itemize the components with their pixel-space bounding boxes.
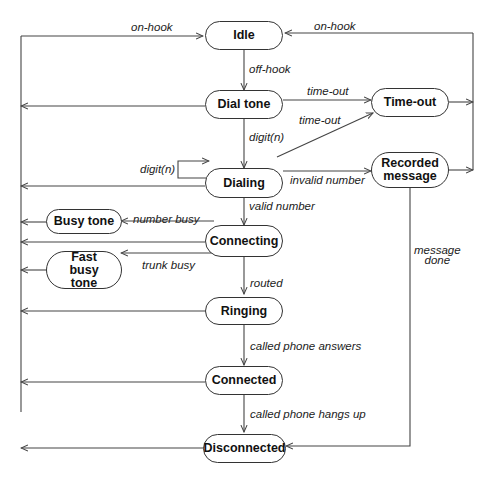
label-dialtone-timeout: time-out — [307, 85, 349, 97]
state-recorded-message: Recorded message — [371, 152, 449, 188]
label-number-busy: number busy — [133, 213, 199, 225]
label-on-hook-left: on-hook — [131, 21, 173, 33]
label-on-hook-right: on-hook — [314, 20, 356, 32]
label-dialing-timeout: time-out — [299, 114, 341, 126]
state-connecting: Connecting — [205, 225, 283, 257]
label-digit-down: digit(n) — [249, 131, 284, 143]
state-ringing: Ringing — [205, 297, 283, 325]
state-busy-tone: Busy tone — [46, 209, 122, 234]
state-disconnected: Disconnected — [203, 434, 286, 463]
label-trunk-busy: trunk busy — [142, 259, 195, 271]
label-valid-number: valid number — [249, 200, 315, 212]
state-dial-tone: Dial tone — [205, 90, 283, 119]
label-called-phone-hangs-up: called phone hangs up — [250, 408, 366, 420]
state-fast-busy-tone: Fast busy tone — [46, 251, 122, 289]
label-message-done: message done — [414, 245, 461, 265]
label-invalid-number: invalid number — [290, 174, 365, 186]
phone-call-state-diagram: Idle Dial tone Time-out Dialing Recorded… — [0, 0, 489, 477]
label-off-hook: off-hook — [249, 63, 291, 75]
state-idle: Idle — [205, 21, 283, 50]
label-digit-self: digit(n) — [140, 163, 175, 175]
state-time-out: Time-out — [371, 88, 449, 117]
state-dialing: Dialing — [205, 168, 283, 198]
label-called-phone-answers: called phone answers — [250, 340, 361, 352]
state-connected: Connected — [205, 366, 283, 395]
label-routed: routed — [250, 277, 283, 289]
